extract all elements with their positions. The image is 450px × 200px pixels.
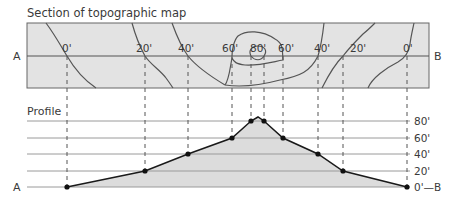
elevation-label-40: 40' — [414, 148, 430, 160]
elevation-label-0-b: 0'—B — [414, 181, 441, 193]
elevation-label-80: 80' — [414, 115, 430, 127]
contour-label: 0' — [403, 42, 413, 54]
profile-point — [280, 135, 285, 140]
contour-label: 60' — [278, 42, 294, 54]
contour-label: 20' — [350, 42, 366, 54]
profile-point — [248, 118, 253, 123]
profile-point — [404, 184, 409, 189]
profile-point — [261, 118, 266, 123]
contour-label: 0' — [62, 42, 72, 54]
profile-point — [142, 168, 147, 173]
map-label-b: B — [434, 50, 442, 63]
contour-label: 40' — [314, 42, 330, 54]
elevation-label-60: 60' — [414, 132, 430, 144]
profile-point — [340, 168, 345, 173]
elevation-label-20: 20' — [414, 165, 430, 177]
profile-point — [185, 151, 190, 156]
elevation-labels: 80' 60' 40' 20' 0'—B — [414, 115, 441, 193]
contour-label: 20' — [136, 42, 152, 54]
map-title: Section of topographic map — [27, 6, 186, 20]
profile-point — [315, 151, 320, 156]
contour-label: 40' — [178, 42, 194, 54]
contour-label: 60' — [222, 42, 238, 54]
contour-label: 80' — [250, 42, 266, 54]
topographic-profile-diagram: Section of topographic map A B 0' 20' 40… — [0, 0, 450, 200]
map-label-a: A — [13, 50, 21, 63]
profile-point — [229, 135, 234, 140]
profile-point — [64, 184, 69, 189]
profile-title: Profile — [27, 105, 61, 118]
profile-label-a: A — [13, 181, 21, 194]
